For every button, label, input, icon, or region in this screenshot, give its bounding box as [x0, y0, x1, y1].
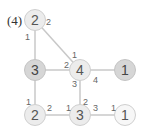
node-top-left: 2 — [24, 9, 46, 31]
node-bottom-left: 2 — [24, 104, 46, 126]
node-center: 4 — [69, 59, 91, 81]
node-bottom-right: 1 — [114, 104, 136, 126]
edge-weight-label: 1 — [111, 104, 116, 113]
edge-weight-label: 2 — [64, 61, 69, 70]
edge-weight-label: 2 — [47, 104, 52, 113]
edge-weight-label: 1 — [72, 51, 77, 60]
edge-weight-label: 4 — [93, 76, 98, 85]
edge-weight-label: 3 — [93, 104, 98, 113]
edge-weight-label: 1 — [25, 33, 30, 42]
node-mid-left: 3 — [24, 59, 46, 81]
node-mid-right: 1 — [114, 59, 136, 81]
edge-weight-label: 2 — [46, 18, 51, 27]
edge-weight-label: 3 — [72, 80, 77, 89]
node-bottom-mid: 3 — [69, 104, 91, 126]
edge-weight-label: 1 — [66, 104, 71, 113]
problem-label: (4) — [7, 13, 22, 29]
edge-weight-label: 1 — [26, 98, 31, 107]
edge-weight-label: 2 — [83, 98, 88, 107]
